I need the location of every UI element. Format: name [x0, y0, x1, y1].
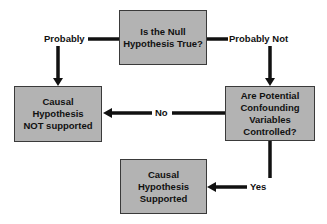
causal-hypothesis-not-supported-box: Causal Hypothesis NOT supported: [14, 86, 102, 142]
edge-label-probably-not: Probably Not: [229, 33, 288, 44]
confounding-variables-question-box: Are Potential Confounding Variables Cont…: [225, 86, 315, 141]
null-hypothesis-question-box: Is the Null Hypothesis True?: [119, 10, 207, 65]
edge-label-probably: Probably: [44, 33, 85, 44]
edge-label-no: No: [155, 107, 168, 118]
causal-hypothesis-supported-box: Causal Hypothesis Supported: [120, 159, 207, 214]
edge-label-yes: Yes: [250, 181, 266, 192]
